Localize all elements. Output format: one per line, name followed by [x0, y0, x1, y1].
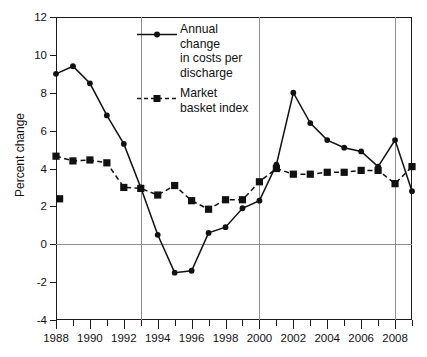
- legend-key-dashed-square: [136, 86, 180, 107]
- x-tick: [73, 320, 74, 326]
- legend-item-annual-change: Annual change in costs per discharge: [136, 22, 258, 80]
- legend-label-line-2: change: [180, 37, 242, 52]
- x-tick-label: 2000: [247, 332, 273, 344]
- x-tick: [395, 320, 396, 329]
- data-point-marker: [409, 188, 415, 194]
- data-point-marker: [324, 169, 331, 176]
- x-tick: [361, 320, 362, 329]
- x-tick-label: 1994: [145, 332, 171, 344]
- x-tick: [226, 320, 227, 329]
- x-tick: [378, 320, 379, 326]
- x-tick: [175, 320, 176, 326]
- legend-label-annual-change: Annual change in costs per discharge: [180, 22, 242, 80]
- legend-label-line-3: in costs per: [180, 51, 242, 66]
- data-point-marker: [307, 120, 313, 126]
- x-tick: [344, 320, 345, 326]
- data-point-marker: [103, 159, 110, 166]
- data-point-marker: [155, 232, 161, 238]
- data-point-marker: [358, 167, 365, 174]
- legend-item-market-basket: Market basket index: [136, 86, 258, 115]
- y-tick-label: 10: [34, 49, 47, 61]
- x-tick: [259, 320, 260, 329]
- x-tick: [327, 320, 328, 329]
- legend-label-line-1: Annual: [180, 22, 242, 37]
- x-tick: [276, 320, 277, 326]
- x-tick: [107, 320, 108, 326]
- x-tick-label: 2006: [348, 332, 374, 344]
- data-point-marker: [290, 171, 297, 178]
- x-tick: [90, 320, 91, 329]
- data-point-marker: [290, 90, 296, 96]
- y-tick-label: 4: [41, 163, 47, 175]
- x-tick-label: 1996: [179, 332, 205, 344]
- data-point-marker: [86, 156, 93, 163]
- x-tick: [192, 320, 193, 329]
- data-point-marker: [273, 165, 280, 172]
- data-point-marker: [189, 268, 195, 274]
- data-point-marker: [56, 195, 63, 202]
- data-point-marker: [341, 145, 347, 151]
- data-point-marker: [188, 197, 195, 204]
- legend-label-line-2: basket index: [180, 101, 248, 116]
- data-point-marker: [392, 137, 398, 143]
- y-tick-label: 8: [41, 87, 47, 99]
- data-point-marker: [104, 113, 110, 119]
- x-tick-label: 1992: [111, 332, 137, 344]
- data-point-marker: [52, 153, 59, 160]
- x-tick-label: 1998: [213, 332, 239, 344]
- data-point-marker: [87, 80, 93, 86]
- x-tick: [124, 320, 125, 329]
- data-point-marker: [137, 185, 144, 192]
- x-tick: [310, 320, 311, 326]
- legend-label-line-4: discharge: [180, 66, 242, 81]
- data-point-marker: [408, 163, 415, 170]
- data-point-marker: [324, 137, 330, 143]
- x-tick-label: 2008: [382, 332, 408, 344]
- data-point-marker: [171, 182, 178, 189]
- data-point-marker: [358, 149, 364, 155]
- x-tick: [141, 320, 142, 326]
- data-point-marker: [375, 167, 382, 174]
- chart-figure: Percent change 121086420-2-4 19881990199…: [0, 0, 427, 357]
- legend: Annual change in costs per discharge Mar…: [136, 22, 258, 121]
- y-axis-title: Percent change: [13, 113, 27, 197]
- data-point-marker: [391, 180, 398, 187]
- data-point-marker: [172, 270, 178, 276]
- data-point-marker: [121, 141, 127, 147]
- data-point-marker: [53, 71, 59, 77]
- x-tick: [412, 320, 413, 326]
- data-point-marker: [205, 206, 212, 213]
- x-tick: [242, 320, 243, 326]
- x-tick: [158, 320, 159, 329]
- y-tick-label: -4: [37, 314, 47, 326]
- y-tick-label: -2: [37, 276, 47, 288]
- data-point-marker: [120, 184, 127, 191]
- y-tick-label: 6: [41, 125, 47, 137]
- x-tick-label: 1988: [43, 332, 69, 344]
- y-tick-label: 12: [34, 11, 47, 23]
- x-tick: [56, 320, 57, 329]
- y-tick-label: 0: [41, 238, 47, 250]
- data-point-marker: [341, 169, 348, 176]
- data-point-marker: [222, 196, 229, 203]
- data-point-marker: [257, 198, 263, 204]
- legend-key-solid-circle: [136, 22, 180, 43]
- x-tick-label: 1990: [77, 332, 103, 344]
- data-point-marker: [154, 191, 161, 198]
- data-point-marker: [70, 63, 76, 69]
- data-point-marker: [206, 230, 212, 236]
- data-point-marker: [307, 171, 314, 178]
- data-point-marker: [256, 178, 263, 185]
- x-tick: [293, 320, 294, 329]
- x-tick-label: 2002: [281, 332, 307, 344]
- legend-label-line-1: Market: [180, 86, 248, 101]
- legend-label-market-basket: Market basket index: [180, 86, 248, 115]
- y-tick-label: 2: [41, 200, 47, 212]
- data-point-marker: [240, 205, 246, 211]
- x-tick-label: 2004: [314, 332, 340, 344]
- data-point-marker: [223, 224, 229, 230]
- data-point-marker: [69, 157, 76, 164]
- x-tick: [209, 320, 210, 326]
- data-point-marker: [239, 196, 246, 203]
